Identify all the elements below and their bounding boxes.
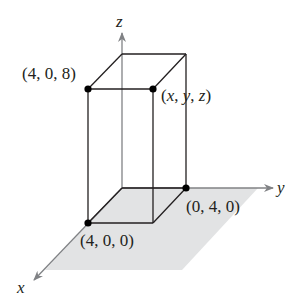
point-x-y-z [149, 85, 156, 92]
label-4-0-0: (4, 0, 0) [80, 231, 134, 250]
box-diagram: z y x (4, 0, 8) (x, y, z) (0, 4, 0) (4, … [0, 0, 299, 300]
point-4-0-8 [84, 85, 91, 92]
x-axis-label: x [16, 278, 25, 297]
label-0-4-0: (0, 4, 0) [186, 197, 240, 216]
label-4-0-8: (4, 0, 8) [22, 64, 76, 83]
point-0-4-0 [182, 184, 189, 191]
label-x-y-z: (x, y, z) [161, 86, 211, 105]
z-axis-label: z [115, 12, 123, 31]
y-axis-label: y [275, 178, 285, 197]
point-4-0-0 [84, 219, 91, 226]
